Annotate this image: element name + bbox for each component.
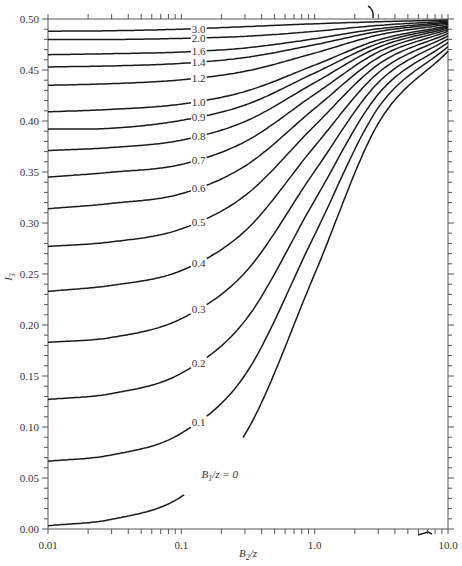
curve-0-2-left	[48, 368, 191, 400]
x-axis-title-rest: /z	[249, 547, 258, 559]
pen-marks	[368, 6, 432, 535]
y-tick-label: 0.45	[20, 64, 40, 76]
curve-1-0-left	[48, 103, 191, 112]
x-tick-label: 10.0	[438, 539, 458, 551]
y-tick-label: 0.20	[20, 319, 40, 331]
y-tick-label: 0.05	[20, 472, 40, 484]
curve-label: B1/z = 0	[201, 468, 238, 483]
curve-label: 1.6	[192, 45, 206, 57]
chart: B1/z = 00.10.20.30.40.50.60.70.80.91.01.…	[0, 0, 462, 566]
curve-label: 0.1	[192, 416, 206, 428]
curve-label: 0.2	[192, 357, 206, 369]
curve-label: 0.7	[192, 154, 206, 166]
curve-0-4-left	[48, 266, 191, 291]
pen-mark-bottom	[418, 532, 432, 535]
y-tick-label: 0.35	[20, 166, 40, 178]
curve-0-6-right	[207, 31, 448, 185]
curve-0-8-right	[207, 28, 448, 134]
curve-1-2-left	[48, 79, 191, 85]
y-tick-label: 0.15	[20, 370, 40, 382]
curve-0-6-left	[48, 191, 191, 209]
curve-1-6-left	[48, 52, 191, 55]
curve-label: 0.8	[192, 130, 206, 142]
curve-label: 0.3	[192, 303, 206, 315]
y-axis-title-sub: 3	[8, 273, 17, 278]
x-tick-label: 0.1	[174, 539, 188, 551]
curve-label: 3.0	[192, 23, 206, 35]
y-tick-label: 0.50	[20, 13, 40, 25]
curve-label: 0.9	[192, 111, 206, 123]
y-tick-label: 0.30	[20, 217, 40, 229]
curve-0-1-left	[48, 427, 191, 461]
y-tick-label: 0.00	[20, 523, 40, 535]
curve-0-2-right	[207, 43, 448, 358]
curve-0-8-left	[48, 138, 191, 150]
curve-label: 0.4	[192, 257, 206, 269]
curve-1-4-left	[48, 63, 191, 67]
curve-0-1-right	[207, 47, 448, 417]
curve-B1z0-right	[243, 51, 448, 437]
y-tick-label: 0.40	[20, 115, 40, 127]
curves	[48, 20, 448, 526]
curve-B1z0-left	[48, 495, 184, 526]
curve-2-0-left	[48, 38, 191, 39]
y-axis-title: I3	[2, 273, 17, 282]
x-tick-label: 0.01	[38, 539, 57, 551]
curve-label: 1.0	[192, 96, 206, 108]
curve-3-0-left	[48, 29, 191, 31]
curve-0-4-right	[207, 36, 448, 259]
curve-label: 0.6	[192, 182, 206, 194]
y-tick-label: 0.10	[20, 421, 40, 433]
curve-0-7-left	[48, 162, 191, 177]
curve-0-3-right	[207, 39, 448, 305]
curve-label: 1.4	[192, 56, 206, 68]
curve-0-5-left	[48, 225, 191, 246]
curve-0-5-right	[207, 33, 448, 218]
curve-label-part: /z = 0	[211, 468, 238, 480]
curve-0-3-left	[48, 314, 191, 343]
curve-label: 0.5	[192, 216, 206, 228]
y-tick-label: 0.25	[20, 268, 40, 280]
curve-label: 1.2	[192, 72, 206, 84]
x-axis-title: B2/z	[239, 547, 258, 562]
curve-0-9-left	[48, 119, 191, 130]
x-tick-label: 1.0	[308, 539, 322, 551]
pen-mark-top	[368, 6, 373, 18]
